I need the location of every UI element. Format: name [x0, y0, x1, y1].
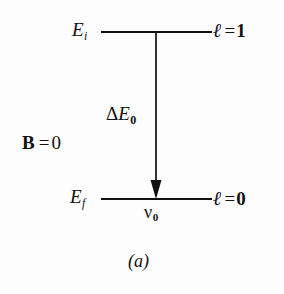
- energy-label-initial-symbol: E: [72, 19, 84, 40]
- quantum-number-label-final: ℓ=0: [213, 188, 246, 208]
- transition-arrow-head: [151, 180, 162, 199]
- frequency-subscript: 0: [153, 211, 159, 223]
- magnetic-field-value: 0: [51, 132, 61, 153]
- ell-symbol-final: ℓ: [213, 186, 222, 210]
- energy-gap-label: ΔE0: [106, 104, 136, 127]
- energy-label-final-subscript: f: [82, 197, 85, 210]
- energy-gap-subscript: 0: [130, 113, 136, 127]
- energy-label-final-symbol: E: [70, 186, 82, 207]
- equals-sign-final: =: [225, 188, 236, 209]
- delta-symbol: Δ: [106, 103, 118, 124]
- quantum-number-value-initial: 1: [236, 20, 246, 41]
- equals-sign-initial: =: [225, 20, 236, 41]
- magnetic-field-symbol: B: [22, 132, 35, 153]
- figure-caption: (a): [128, 252, 149, 270]
- energy-label-initial-subscript: i: [84, 30, 87, 43]
- frequency-label: ν0: [144, 203, 158, 224]
- ell-symbol-initial: ℓ: [213, 18, 222, 42]
- quantum-number-label-initial: ℓ=1: [213, 20, 246, 40]
- nu-symbol: ν: [144, 202, 152, 222]
- energy-label-final: Ef: [70, 187, 85, 210]
- quantum-number-value-final: 0: [236, 188, 246, 209]
- magnetic-field-condition: B=0: [22, 133, 61, 152]
- magnetic-field-equals: =: [39, 132, 50, 153]
- energy-gap-symbol: E: [118, 103, 130, 124]
- energy-level-diagram: Ei Ef ℓ=1 ℓ=0 B=0 ΔE0 ν0 (a): [0, 0, 284, 294]
- energy-label-initial: Ei: [72, 20, 87, 43]
